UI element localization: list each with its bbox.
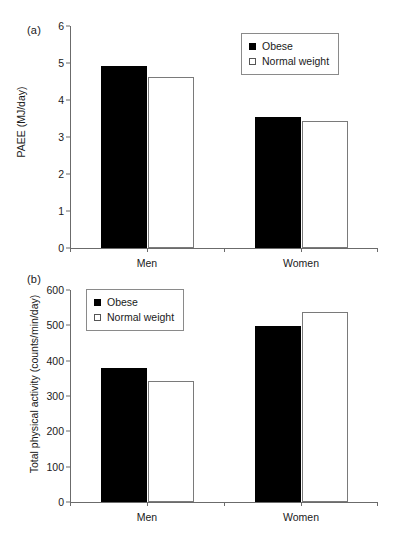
panel-b-y-tick-label: 600	[46, 284, 70, 296]
panel-b-legend: Obese Normal weight	[86, 289, 184, 331]
panel-b-legend-label-normal-weight: Normal weight	[107, 312, 174, 323]
legend-swatch-obese-icon	[249, 43, 256, 50]
panel-b-y-tick-label: 400	[46, 355, 70, 367]
panel-a: (a) PAEE (MJ/day) 0123456MenWomen Obese …	[0, 0, 397, 268]
panel-b-y-tick-label: 500	[46, 319, 70, 331]
panel-a-x-tick-mark	[147, 248, 148, 252]
legend-swatch-normal-weight-icon	[94, 314, 101, 321]
panel-a-y-tick-label: 4	[58, 94, 70, 106]
panel-a-y-tick-label: 6	[58, 20, 70, 32]
panel-a-x-tick-mark	[224, 248, 225, 252]
panel-b-x-tick-mark	[377, 502, 378, 506]
panel-a-x-tick-mark	[301, 248, 302, 252]
panel-b-y-tick-label: 300	[46, 390, 70, 402]
panel-a-x-tick-mark	[70, 248, 71, 252]
bar-men-normal-weight	[148, 381, 194, 502]
panel-b-y-axis-title: Total physical activity (counts/min/day)	[28, 274, 40, 494]
panel-a-y-tick-label: 2	[58, 168, 70, 180]
panel-a-legend-label-obese: Obese	[262, 41, 293, 52]
panel-a-y-tick-label: 1	[58, 205, 70, 217]
panel-b-y-axis	[70, 290, 71, 502]
bar-women-normal-weight	[302, 312, 348, 502]
bar-men-obese	[101, 66, 147, 248]
panel-b-legend-row-obese: Obese	[94, 295, 174, 310]
legend-swatch-normal-weight-icon	[249, 58, 256, 65]
bar-men-normal-weight	[148, 77, 194, 248]
panel-a-label: (a)	[27, 24, 41, 36]
panel-a-y-tick-label: 0	[58, 242, 70, 254]
panel-a-legend-row-normal: Normal weight	[249, 54, 329, 69]
panel-b-y-tick-label: 100	[46, 461, 70, 473]
bar-women-normal-weight	[302, 121, 348, 248]
panel-a-legend-row-obese: Obese	[249, 39, 329, 54]
panel-a-legend-label-normal-weight: Normal weight	[262, 56, 329, 67]
panel-b-y-tick-label: 200	[46, 425, 70, 437]
bar-women-obese	[255, 117, 301, 248]
legend-swatch-obese-icon	[94, 299, 101, 306]
panel-b-x-tick-mark	[70, 502, 71, 506]
panel-a-y-tick-label: 5	[58, 57, 70, 69]
panel-b-y-tick-label: 0	[58, 496, 70, 508]
panel-b: (b) Total physical activity (counts/min/…	[0, 268, 397, 537]
panel-b-x-label-women: Women	[283, 511, 319, 523]
panel-a-y-axis	[70, 26, 71, 248]
bar-women-obese	[255, 326, 301, 502]
panel-b-legend-row-normal: Normal weight	[94, 310, 174, 325]
panel-b-x-label-men: Men	[137, 511, 157, 523]
panel-a-legend: Obese Normal weight	[241, 33, 339, 75]
panel-b-x-tick-mark	[301, 502, 302, 506]
panel-b-x-tick-mark	[147, 502, 148, 506]
panel-a-y-axis-title: PAEE (MJ/day)	[15, 62, 27, 182]
panel-a-x-tick-mark	[377, 248, 378, 252]
panel-b-legend-label-obese: Obese	[107, 297, 138, 308]
panel-b-x-tick-mark	[224, 502, 225, 506]
bar-men-obese	[101, 368, 147, 502]
panel-a-y-tick-label: 3	[58, 131, 70, 143]
